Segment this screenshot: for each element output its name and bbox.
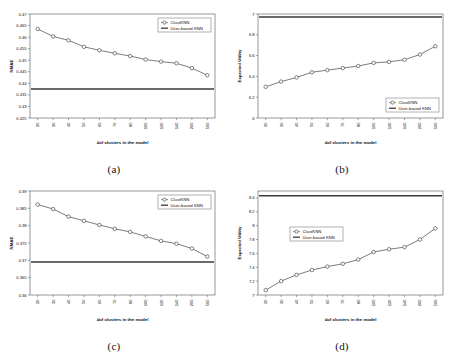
data-point-marker — [372, 250, 376, 254]
data-point-marker — [82, 219, 86, 223]
data-point-marker — [387, 247, 391, 251]
x-axis-tick-label: 100 — [143, 299, 148, 307]
x-axis-tick-label: 100 — [371, 122, 376, 130]
data-point-marker — [356, 258, 360, 262]
y-axis-tick-label: 8 — [252, 223, 255, 228]
data-point-marker — [98, 223, 102, 227]
x-axis-tick-label: 200 — [189, 299, 194, 307]
data-point-marker — [113, 52, 117, 56]
y-axis-tick-label: 6.8 — [249, 32, 255, 37]
x-axis-label: #of clusters in the model — [325, 140, 377, 145]
chart-legend: ClustKNNUser-based KNN — [158, 18, 211, 32]
y-axis-tick-label: 7.6 — [249, 251, 255, 256]
data-point-marker — [418, 53, 422, 57]
legend-label-user-based-knn: User-based KNN — [171, 203, 203, 208]
x-axis-tick-label: 50 — [81, 122, 86, 127]
y-axis-tick-label: 0.37 — [19, 258, 28, 263]
chart-svg-a: 0.4250.430.4350.440.4450.450.4550.460.46… — [0, 0, 228, 176]
x-axis-label: #of clusters in the model — [97, 140, 149, 145]
x-axis-tick-label: 100 — [371, 299, 376, 307]
data-point-marker — [279, 80, 283, 84]
legend-label-clustknn: ClustKNN — [303, 229, 322, 234]
data-point-marker — [36, 27, 40, 31]
data-point-marker — [341, 262, 345, 266]
y-axis-tick-label: 7.4 — [249, 265, 255, 270]
legend-series-marker — [163, 198, 166, 201]
y-axis-tick-label: 7 — [252, 12, 255, 17]
chart-panel-c: 0.360.3650.370.3750.380.3850.39203040506… — [0, 177, 228, 353]
y-axis-tick-label: 7.8 — [249, 237, 255, 242]
legend-series-marker — [163, 21, 166, 24]
x-axis-tick-label: 500 — [433, 122, 438, 130]
x-axis-label: #of clusters in the model — [325, 317, 377, 322]
chart-svg-b: 66.26.46.66.8720304050607080100120140200… — [228, 0, 456, 176]
x-axis-tick-label: 60 — [325, 122, 330, 127]
chart-panel-a: 0.4250.430.4350.440.4450.450.4550.460.46… — [0, 0, 228, 176]
data-point-marker — [295, 273, 299, 277]
x-axis-tick-label: 70 — [340, 299, 345, 304]
x-axis-tick-label: 80 — [356, 299, 361, 304]
data-point-marker — [98, 49, 102, 53]
data-point-marker — [372, 61, 376, 65]
data-point-marker — [326, 265, 330, 269]
data-point-marker — [295, 76, 299, 80]
data-point-marker — [82, 45, 86, 49]
chart-svg-c: 0.360.3650.370.3750.380.3850.39203040506… — [0, 177, 228, 353]
y-axis-label: Expected Utility — [237, 49, 242, 82]
x-axis-tick-label: 120 — [159, 122, 164, 130]
data-point-marker — [434, 227, 438, 231]
x-axis-tick-label: 500 — [205, 299, 210, 307]
chart-legend: ClustKNNUser-based KNN — [158, 195, 211, 209]
legend-label-user-based-knn: User-based KNN — [171, 26, 203, 31]
y-axis-tick-label: 0.36 — [19, 293, 28, 298]
y-axis-tick-label: 0.455 — [16, 46, 27, 51]
y-axis-tick-label: 0.47 — [19, 12, 28, 17]
y-axis-tick-label: 0.435 — [16, 92, 27, 97]
y-axis-tick-label: 8.4 — [249, 195, 255, 200]
data-point-marker — [67, 39, 71, 43]
y-axis-tick-label: 6.2 — [249, 95, 255, 100]
data-point-marker — [356, 64, 360, 68]
data-point-marker — [264, 85, 268, 89]
data-point-marker — [206, 255, 210, 259]
x-axis-tick-label: 40 — [294, 122, 299, 127]
data-point-marker — [206, 73, 210, 77]
x-axis-tick-label: 20 — [263, 122, 268, 127]
data-point-marker — [190, 247, 194, 251]
data-point-marker — [190, 66, 194, 70]
x-axis-tick-label: 200 — [189, 122, 194, 130]
x-axis-tick-label: 60 — [97, 299, 102, 304]
data-point-marker — [159, 60, 163, 64]
y-axis-tick-label: 0.45 — [19, 58, 28, 63]
x-axis-tick-label: 30 — [279, 122, 284, 127]
data-point-marker — [144, 58, 148, 62]
y-axis-label: NMAE — [9, 59, 14, 72]
legend-label-user-based-knn: User-based KNN — [399, 106, 431, 111]
legend-label-user-based-knn: User-based KNN — [303, 235, 335, 240]
chart-panel-b: 66.26.46.66.8720304050607080100120140200… — [228, 0, 456, 176]
legend-label-clustknn: ClustKNN — [171, 20, 190, 25]
figure-sheet: 0.4250.430.4350.440.4450.450.4550.460.46… — [0, 0, 456, 353]
x-axis-tick-label: 70 — [112, 299, 117, 304]
data-point-marker — [310, 268, 314, 272]
legend-series-marker — [391, 101, 394, 104]
x-axis-tick-label: 120 — [387, 299, 392, 307]
x-axis-tick-label: 500 — [205, 122, 210, 130]
x-axis-tick-label: 200 — [417, 122, 422, 130]
data-point-marker — [144, 235, 148, 239]
panel-caption-a: (a) — [0, 163, 228, 175]
x-axis-tick-label: 120 — [387, 122, 392, 130]
x-axis-tick-label: 50 — [81, 299, 86, 304]
x-axis-tick-label: 140 — [174, 299, 179, 307]
y-axis-tick-label: 0.425 — [16, 116, 27, 121]
data-point-marker — [418, 238, 422, 242]
data-point-marker — [326, 68, 330, 72]
data-point-marker — [175, 242, 179, 246]
legend-series-marker — [295, 230, 298, 233]
data-point-marker — [175, 61, 179, 65]
y-axis-tick-label: 0.43 — [19, 104, 28, 109]
y-axis-tick-label: 0.365 — [16, 275, 27, 280]
x-axis-tick-label: 60 — [325, 299, 330, 304]
x-axis-tick-label: 60 — [97, 122, 102, 127]
y-axis-tick-label: 8.2 — [249, 209, 255, 214]
